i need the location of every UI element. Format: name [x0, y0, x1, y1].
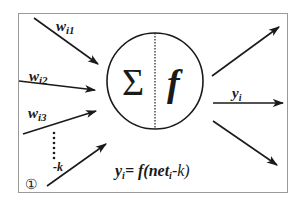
ellipsis-dots: [53, 132, 56, 160]
output-arrow-down: [213, 121, 277, 165]
neuron-diagram: wi1 wi2 wi3 -k ① Σ f yi yi= f(neti-k): [0, 0, 302, 208]
input-label-3: wi3: [28, 105, 47, 123]
threshold-label: -k: [53, 160, 63, 174]
output-arrow-up: [212, 27, 279, 76]
sum-symbol: Σ: [122, 61, 144, 103]
input-label-1: wi1: [56, 18, 75, 36]
activation-equation: yi= f(neti-k): [113, 162, 190, 181]
input-label-2: wi2: [29, 68, 48, 86]
output-label: yi: [230, 85, 242, 103]
threshold-input-marker: ①: [25, 177, 38, 192]
